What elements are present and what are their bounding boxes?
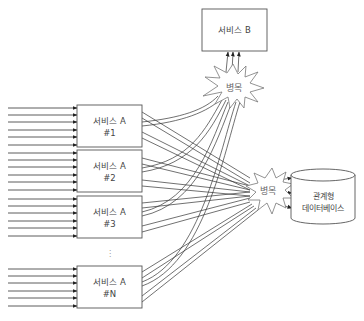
bottleneck-label: 병목 (226, 83, 242, 93)
service-a-label: 서비스 A (93, 161, 126, 171)
service-a-node-n: 서비스 A #N (77, 266, 142, 308)
service-a-instance-number: #2 (103, 173, 116, 183)
service-a-node-3: 서비스 A #3 (77, 196, 142, 238)
database-label-line1: 관계형 (313, 191, 334, 201)
service-a-instance-number: #1 (103, 128, 116, 138)
bottleneck-label: 병목 (260, 186, 276, 196)
service-a-instance-number: #3 (103, 219, 116, 229)
architecture-diagram: 서비스 B 서비스 A #1 서비스 A #2 서비스 A #3 ⋮ 서비스 A… (0, 0, 364, 321)
incoming-requests (8, 108, 77, 306)
service-b-label: 서비스 B (218, 25, 251, 35)
service-b-node: 서비스 B (202, 9, 267, 51)
service-a-node-1: 서비스 A #1 (77, 105, 142, 147)
database-label-line2: 데이터베이스 (302, 203, 344, 213)
service-a-label: 서비스 A (93, 116, 126, 126)
service-a-instance-number: #N (103, 289, 116, 299)
relational-database: 관계형 데이터베이스 (291, 169, 355, 224)
service-a-label: 서비스 A (93, 277, 126, 287)
ellipsis: ⋮ (106, 249, 114, 258)
service-a-node-2: 서비스 A #2 (77, 150, 142, 192)
service-a-label: 서비스 A (93, 207, 126, 217)
bottleneck-right: 병목 (246, 168, 293, 214)
